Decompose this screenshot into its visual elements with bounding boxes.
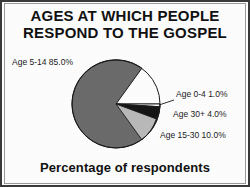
pie-label-age-5-14: Age 5-14 85.0%	[12, 57, 73, 67]
chart-caption: Percentage of respondents	[8, 160, 242, 175]
leader-line-age-0-4	[159, 100, 174, 105]
plot-area: AGES AT WHICH PEOPLE RESPOND TO THE GOSP…	[0, 0, 250, 187]
pie-label-age-15-30: Age 15-30 10.0%	[160, 130, 226, 140]
chart-figure: AGES AT WHICH PEOPLE RESPOND TO THE GOSP…	[0, 0, 250, 187]
pie-label-age-0-4: Age 0-4 1.0%	[176, 89, 228, 99]
pie-label-age-30-plus: Age 30+ 4.0%	[173, 109, 227, 119]
